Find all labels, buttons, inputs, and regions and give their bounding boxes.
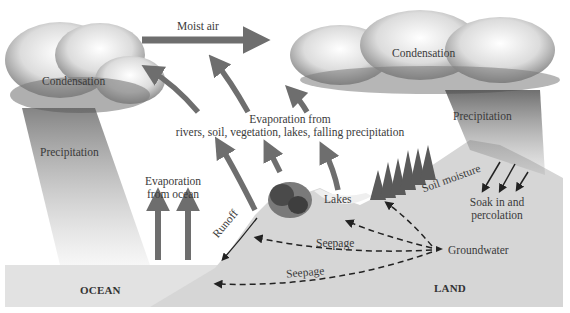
condensation-left-label: Condensation <box>42 75 105 88</box>
soak-in-line2: percolation <box>460 209 534 222</box>
cloud-left-icon <box>5 22 165 113</box>
evaporation-ocean-line2: from ocean <box>130 188 216 201</box>
seepage-upper-label: Seepage <box>316 237 354 250</box>
moist-air-label: Moist air <box>177 20 219 33</box>
land-label: LAND <box>434 282 466 295</box>
ocean-label: OCEAN <box>80 284 121 297</box>
ocean-evaporation-arrows <box>158 198 188 260</box>
precipitation-left-label: Precipitation <box>40 146 99 159</box>
evaporation-ocean-line1: Evaporation <box>130 175 216 188</box>
soak-in-label: Soak in and percolation <box>460 196 534 222</box>
evaporation-land-line1: Evaporation from <box>150 113 430 126</box>
evaporation-land-line2: rivers, soil, vegetation, lakes, falling… <box>150 126 430 139</box>
evaporation-land-label: Evaporation from rivers, soil, vegetatio… <box>150 113 430 139</box>
condensation-right-label: Condensation <box>392 47 455 60</box>
land-area <box>150 140 563 307</box>
precipitation-right-label: Precipitation <box>453 110 512 123</box>
evaporation-ocean-label: Evaporation from ocean <box>130 175 216 201</box>
water-cycle-diagram: Moist air Condensation Condensation Prec… <box>0 0 570 313</box>
groundwater-label: Groundwater <box>448 244 509 257</box>
soak-in-line1: Soak in and <box>460 196 534 209</box>
lakes-label: Lakes <box>324 193 351 206</box>
trees-icon <box>268 182 312 218</box>
